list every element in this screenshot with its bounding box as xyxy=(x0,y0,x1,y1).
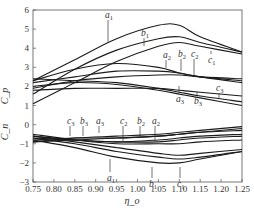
y-tick-label: 5 xyxy=(25,24,30,34)
y-tick-label: 4 xyxy=(25,43,30,53)
y-tick-label: −2 xyxy=(19,158,29,168)
curve-label-c1: c1 xyxy=(208,55,215,66)
curve-cp-b3 xyxy=(33,83,242,106)
x-tick-label: 0.90 xyxy=(88,184,104,194)
x-tick-label: 0.80 xyxy=(46,184,62,194)
curve-label-b1: b1 xyxy=(141,28,149,39)
x-tick-label: 0.95 xyxy=(109,184,125,194)
axis-ticks: 0.750.800.850.900.951.001.051.101.151.20… xyxy=(19,5,250,194)
y-tick-label: 6 xyxy=(25,5,30,15)
y-tick-label: 1 xyxy=(25,101,30,111)
curve-label-b2: b2 xyxy=(178,49,186,60)
curves xyxy=(33,24,242,164)
y-tick-label: −3 xyxy=(19,177,29,187)
curve-label-a1: a1 xyxy=(107,173,115,184)
curve-label-b3: b3 xyxy=(80,116,88,127)
y-tick-label: −1 xyxy=(19,139,29,149)
curve-cp-c2 xyxy=(33,75,242,89)
y-axis-label-cn: C_n xyxy=(0,124,10,141)
curve-label-c3: c3 xyxy=(67,116,74,127)
y-tick-label: 2 xyxy=(25,81,30,91)
curve-label-a1: a1 xyxy=(105,10,113,21)
curve-label-a3: a3 xyxy=(176,94,184,105)
x-tick-label: 1.15 xyxy=(192,184,208,194)
curve-label-c3: c3 xyxy=(216,83,223,94)
x-tick-label: 1.00 xyxy=(130,184,146,194)
x-tick-label: 1.20 xyxy=(213,184,229,194)
curve-label-c2: c2 xyxy=(191,49,198,60)
coefficient-chart: 0.750.800.850.900.951.001.051.101.151.20… xyxy=(0,0,254,216)
curve-label-c2: c2 xyxy=(120,116,127,127)
curve-label-a3: a3 xyxy=(96,116,104,127)
curve-label-b2: b2 xyxy=(137,116,145,127)
x-axis-label: η_o xyxy=(125,195,140,206)
curve-cp-b2 xyxy=(33,71,242,83)
y-tick-label: 3 xyxy=(25,62,30,72)
curve-label-c1: c1 xyxy=(177,179,184,190)
curve-label-b1: b1 xyxy=(149,179,157,190)
x-tick-label: 0.85 xyxy=(67,184,83,194)
curve-cp-c3 xyxy=(33,88,242,96)
curve-label-a2: a2 xyxy=(163,50,171,61)
y-tick-label: 0 xyxy=(25,120,30,130)
y-axis-label-cp: C_p xyxy=(0,88,10,105)
x-tick-label: 1.25 xyxy=(234,184,250,194)
curve-label-a2: a2 xyxy=(152,116,160,127)
